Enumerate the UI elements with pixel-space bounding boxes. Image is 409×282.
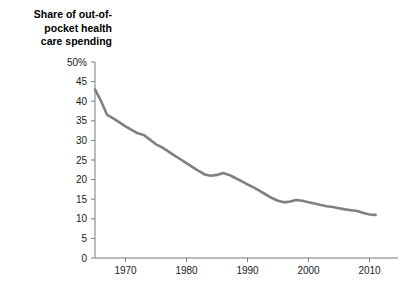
x-axis-tick-label: 1990 [236,265,259,276]
y-axis-tick-label: 45 [76,76,88,87]
y-axis-tick-label: 40 [76,96,88,107]
x-axis-tick-label: 1980 [175,265,198,276]
line-chart-plot: 50%454035302520151050 197019801990200020… [0,0,409,282]
y-axis-tick-label: 15 [76,194,88,205]
y-axis: 50%454035302520151050 [67,57,95,264]
y-axis-tick-label: 35 [76,115,88,126]
x-axis-tick-label: 2010 [358,265,381,276]
x-axis-tick-label: 1970 [114,265,137,276]
y-axis-tick-label: 30 [76,135,88,146]
y-axis-tick-label: 5 [81,233,87,244]
y-axis-tick-label: 10 [76,213,88,224]
data-line [95,89,376,214]
y-axis-tick-label: 20 [76,174,88,185]
y-axis-tick-label: 25 [76,155,88,166]
chart-page: Share of out-of- pocket health care spen… [0,0,409,282]
y-axis-tick-label: 0 [81,253,87,264]
y-axis-tick-label: 50% [67,57,87,68]
x-axis: 19701980199020002010 [95,258,398,276]
data-series-group [95,89,376,214]
x-axis-tick-label: 2000 [297,265,320,276]
